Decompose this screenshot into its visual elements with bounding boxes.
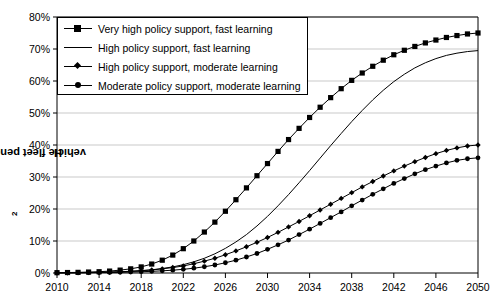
y-axis-ticks: 0%10%20%30%40%50%60%70%80% [29, 11, 57, 279]
svg-text:2030: 2030 [256, 281, 280, 293]
svg-text:70%: 70% [29, 43, 50, 55]
svg-text:2022: 2022 [172, 281, 196, 293]
svg-text:2046: 2046 [424, 281, 448, 293]
legend-item-1[interactable]: High policy support, fast learning [58, 38, 307, 57]
series-3 [55, 155, 481, 275]
legend-item-0[interactable]: Very high policy support, fast learning [58, 19, 307, 38]
svg-text:60%: 60% [29, 75, 50, 87]
legend-item-3[interactable]: Moderate policy support, moderate learni… [58, 76, 307, 95]
svg-text:2014: 2014 [87, 281, 111, 293]
legend-label-1: High policy support, fast learning [98, 42, 250, 54]
svg-text:2010: 2010 [45, 281, 69, 293]
svg-text:2042: 2042 [382, 281, 406, 293]
svg-text:10%: 10% [29, 235, 50, 247]
legend: Very high policy support, fast learning … [57, 17, 308, 95]
svg-text:2038: 2038 [340, 281, 364, 293]
legend-marker-line-icon [58, 38, 98, 57]
legend-marker-circle-icon [58, 76, 98, 95]
svg-text:80%: 80% [29, 11, 50, 23]
svg-text:30%: 30% [29, 171, 50, 183]
svg-text:2018: 2018 [130, 281, 154, 293]
svg-text:0%: 0% [35, 267, 50, 279]
chart-container: H2 vehicle fleet penetration 0%10%20%30%… [0, 0, 495, 305]
x-axis-ticks: 2010201420182022202620302034203820422046… [45, 273, 490, 293]
svg-text:2034: 2034 [298, 281, 322, 293]
legend-marker-diamond-icon [58, 57, 98, 76]
svg-text:2026: 2026 [214, 281, 238, 293]
legend-label-3: Moderate policy support, moderate learni… [98, 80, 301, 92]
legend-label-2: High policy support, moderate learning [98, 61, 278, 73]
svg-text:20%: 20% [29, 203, 50, 215]
legend-item-2[interactable]: High policy support, moderate learning [58, 57, 307, 76]
svg-text:50%: 50% [29, 107, 50, 119]
legend-label-0: Very high policy support, fast learning [98, 23, 273, 35]
svg-text:40%: 40% [29, 139, 50, 151]
legend-marker-square-icon [58, 19, 98, 38]
svg-text:2050: 2050 [466, 281, 490, 293]
